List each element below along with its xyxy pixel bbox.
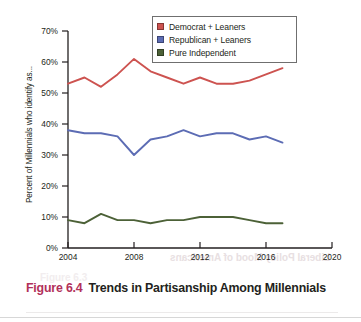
legend: Democrat + Leaners Republican + Leaners … — [152, 16, 297, 63]
series-line-democrat-leaners — [68, 59, 283, 87]
caption-rule — [0, 317, 361, 318]
series-line-republican-leaners — [68, 130, 283, 155]
legend-item-independent: Pure Independent — [157, 46, 291, 59]
y-tick-label: 60% — [41, 57, 58, 67]
y-tick-label: 40% — [41, 119, 58, 129]
x-tick-label: 2016 — [257, 252, 276, 262]
y-axis-label: Percent of Millennials who identify as..… — [25, 45, 34, 225]
x-tick-label: 2008 — [125, 252, 144, 262]
y-tick-label: 30% — [41, 150, 58, 160]
chart: Percent of Millennials who identify as..… — [0, 0, 361, 268]
y-tick-label: 0% — [46, 243, 59, 253]
figure-title: Trends in Partisanship Among Millennials — [89, 281, 326, 295]
figure-caption: Figure 6.4Trends in Partisanship Among M… — [26, 281, 338, 296]
y-tick-label: 10% — [41, 212, 58, 222]
figure-number: Figure 6.4 — [26, 281, 83, 295]
x-tick-label: 2004 — [59, 252, 78, 262]
y-tick-label: 50% — [41, 88, 58, 98]
x-tick-label: 2020 — [323, 252, 342, 262]
caption-rule-light — [26, 312, 338, 313]
legend-item-republican: Republican + Leaners — [157, 33, 291, 46]
y-axis-ticks: 0%10%20%30%40%50%60%70% — [41, 26, 68, 253]
legend-swatch-independent-icon — [157, 49, 164, 56]
y-tick-label: 70% — [41, 26, 58, 36]
x-axis-ticks: 20042008201220162020 — [59, 242, 342, 262]
legend-swatch-democrat-icon — [157, 23, 164, 30]
legend-label-democrat: Democrat + Leaners — [169, 22, 245, 32]
legend-label-independent: Pure Independent — [169, 48, 236, 58]
figure-page: Liberal Policy Mood of Americans Figure … — [0, 0, 361, 322]
legend-item-democrat: Democrat + Leaners — [157, 20, 291, 33]
legend-swatch-republican-icon — [157, 36, 164, 43]
series-line-pure-independent — [68, 214, 283, 223]
legend-label-republican: Republican + Leaners — [169, 35, 251, 45]
x-tick-label: 2012 — [191, 252, 210, 262]
y-tick-label: 20% — [41, 181, 58, 191]
data-series-group — [68, 59, 283, 223]
